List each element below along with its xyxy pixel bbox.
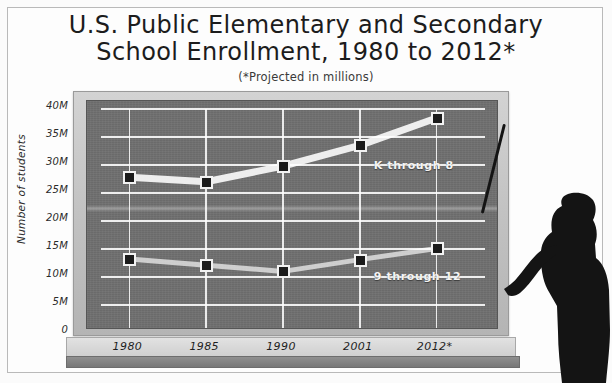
y-axis-tick-label: 20M [26, 212, 68, 223]
gridline-vertical [282, 109, 284, 329]
x-axis-tick-label: 1985 [189, 340, 219, 353]
gridline-horizontal [101, 108, 485, 110]
series-label: 9 through 12 [374, 270, 461, 283]
y-axis-tick-label: 40M [26, 100, 68, 111]
chart-page: U.S. Public Elementary and Secondary Sch… [0, 0, 612, 383]
y-axis-tick-label: 35M [26, 128, 68, 139]
y-axis-tick-label: 10M [26, 268, 68, 279]
gridline-horizontal [101, 248, 485, 250]
y-axis-tick-label: 15M [26, 240, 68, 251]
x-axis-tick-label: 2012* [417, 340, 453, 353]
gridline-horizontal [101, 136, 485, 138]
x-axis-tick-label: 1990 [266, 340, 296, 353]
y-axis-tick-label: 5M [26, 296, 68, 307]
title-line-2: School Enrollment, 1980 to 2012* [30, 39, 582, 66]
data-point-marker [123, 253, 136, 266]
y-axis-tick-label: 25M [26, 184, 68, 195]
chalk-tray-bottom [66, 356, 520, 368]
data-point-marker [277, 265, 290, 278]
y-axis-tick-label: 30M [26, 156, 68, 167]
x-axis-tick-label: 2001 [343, 340, 373, 353]
gridline-vertical [205, 109, 207, 329]
y-axis-tick-label: 0 [26, 324, 68, 335]
data-point-marker [277, 160, 290, 173]
x-axis-tick-label: 1980 [113, 340, 143, 353]
gridline-vertical [129, 109, 131, 329]
data-point-marker [354, 139, 367, 152]
y-axis-tick-labels: 40M35M30M25M20M15M10M5M0 [22, 0, 68, 383]
teacher-silhouette-icon [500, 180, 612, 383]
chart-title: U.S. Public Elementary and Secondary Sch… [30, 12, 582, 66]
data-point-marker [200, 259, 213, 272]
data-point-marker [431, 242, 444, 255]
data-point-marker [123, 171, 136, 184]
gridline-horizontal [101, 220, 485, 222]
gridline-horizontal [101, 304, 485, 306]
series-lines [101, 109, 485, 329]
plot-area: K through 89 through 12 [101, 109, 485, 329]
chart-subtitle: (*Projected in millions) [30, 70, 582, 84]
chalkboard-frame: K through 89 through 12 [73, 91, 509, 336]
data-point-marker [200, 176, 213, 189]
title-line-1: U.S. Public Elementary and Secondary [30, 12, 582, 39]
gridline-vertical [436, 109, 438, 329]
data-point-marker [431, 112, 444, 125]
series-label: K through 8 [374, 159, 454, 172]
chalkboard-surface: K through 89 through 12 [86, 100, 498, 329]
gridline-horizontal [101, 192, 485, 194]
data-point-marker [354, 254, 367, 267]
